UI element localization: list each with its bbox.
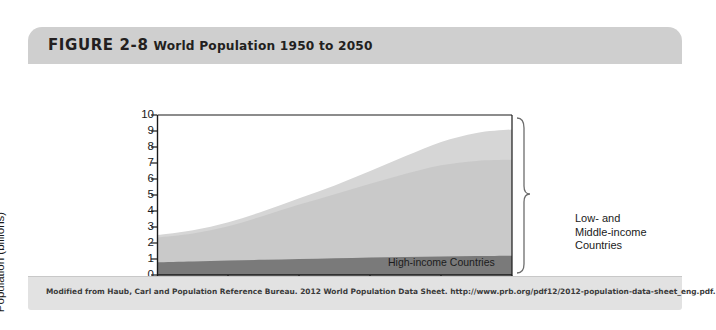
figure-title: FIGURE 2-8World Population 1950 to 2050 (48, 36, 373, 54)
figure-footer-bar: Modified from Haub, Carl and Population … (28, 276, 682, 310)
stacked-areas (158, 129, 513, 275)
low-middle-income-label: Low- and Middle-income Countries (575, 212, 647, 253)
y-axis-ticks (151, 115, 157, 275)
figure-body: Population (billions) 10 9 8 7 6 5 4 3 2… (28, 64, 682, 276)
figure-container: FIGURE 2-8World Population 1950 to 2050 … (0, 0, 716, 330)
figure-header-bar: FIGURE 2-8World Population 1950 to 2050 (28, 27, 682, 64)
figure-title-text: World Population 1950 to 2050 (153, 39, 372, 53)
figure-card: FIGURE 2-8World Population 1950 to 2050 … (28, 27, 682, 310)
footer-divider (28, 276, 682, 277)
source-citation: Modified from Haub, Carl and Population … (46, 287, 676, 296)
low-middle-income-line-1: Low- and (575, 212, 647, 226)
low-middle-income-line-3: Countries (575, 239, 647, 253)
figure-number: FIGURE 2-8 (48, 36, 148, 54)
brace-low-middle-income (517, 118, 530, 273)
y-axis-title: Population (billions) (0, 162, 6, 330)
low-middle-income-line-2: Middle-income (575, 226, 647, 240)
high-income-band-label: High-income Countries (388, 256, 495, 268)
